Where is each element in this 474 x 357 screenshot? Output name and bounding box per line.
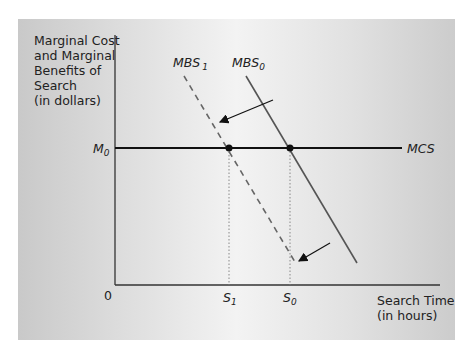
x-tick-s1-sub: 1 [231, 297, 237, 307]
mbs1-label-base: MBS [173, 55, 200, 70]
mbs1-curve [184, 76, 295, 262]
x-tick-s0-sub: 0 [291, 297, 297, 307]
mbs0-label-base: MBS [232, 55, 259, 70]
mbs0-label-sub: 0 [259, 62, 265, 72]
equilibrium-point-s0 [287, 145, 294, 152]
y-axis-label-line-5: (in dollars) [34, 93, 101, 108]
x-tick-s1-base: S [223, 290, 231, 305]
x-axis-label-line-2: (in hours) [377, 308, 437, 323]
mbs0-label: MBS0 [232, 55, 265, 72]
mcs-label: MCS [407, 141, 435, 156]
x-axis-label-line-1: Search Time [377, 293, 455, 308]
mbs1-label-sub: 1 [202, 62, 208, 72]
y-axis-label: Marginal Cost and Marginal Benefits of S… [34, 33, 124, 108]
y-tick-m0-base: M [93, 141, 104, 156]
y-tick-m0: M0 [93, 141, 110, 158]
shift-arrow-upper [220, 100, 273, 122]
y-axis-label-line-4: Search [34, 78, 77, 93]
equilibrium-point-s1 [226, 145, 233, 152]
mbs1-label: MBS1 [173, 55, 208, 72]
x-tick-s1: S1 [223, 290, 237, 307]
y-axis-label-line-3: Benefits of [34, 63, 102, 78]
x-tick-s0-base: S [283, 290, 291, 305]
y-axis-label-line-2: and Marginal [34, 48, 115, 63]
y-tick-m0-sub: 0 [104, 148, 110, 158]
x-tick-s0: S0 [283, 290, 297, 307]
x-axis-label: Search Time (in hours) [377, 293, 459, 323]
origin-label: 0 [104, 288, 112, 303]
y-axis-label-line-1: Marginal Cost [34, 33, 120, 48]
diagram-canvas: Marginal Cost and Marginal Benefits of S… [0, 0, 474, 357]
shift-arrow-lower [299, 243, 330, 261]
